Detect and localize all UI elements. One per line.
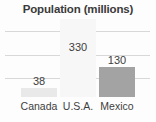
chart-title: Population (millions) <box>0 3 156 15</box>
bar-value-mexico: 130 <box>95 54 139 66</box>
bar-usa[interactable] <box>60 19 96 97</box>
category-axis: Canada U.S.A. Mexico <box>0 100 156 116</box>
bars-layer: 38 330 130 <box>0 22 156 100</box>
bar-canada[interactable] <box>21 88 57 97</box>
plot-area: 38 330 130 <box>0 22 156 100</box>
category-label-usa: U.S.A. <box>56 100 100 112</box>
bar-value-canada: 38 <box>17 75 61 87</box>
category-label-mexico: Mexico <box>95 100 139 112</box>
bar-chart: Population (millions) 38 330 130 Canada … <box>0 0 156 122</box>
category-label-canada: Canada <box>17 100 61 112</box>
bar-mexico[interactable] <box>99 67 135 97</box>
bar-value-usa: 330 <box>56 41 100 53</box>
